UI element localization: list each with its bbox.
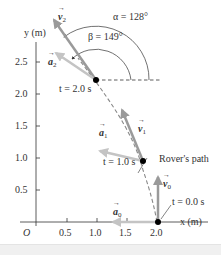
v2-label: v2 bbox=[58, 12, 66, 24]
y-tick-label-1.0: 1.0 bbox=[15, 153, 28, 163]
x-tick-label-2.0: 2.0 bbox=[150, 228, 163, 238]
a1-label: a1 bbox=[99, 128, 108, 140]
point-t0 bbox=[155, 219, 161, 225]
alpha-angle-label: α = 128° bbox=[113, 12, 148, 22]
y-axis-label: y (m) bbox=[24, 28, 46, 38]
beta-arc bbox=[72, 49, 131, 80]
v1-label: v1 bbox=[138, 124, 146, 136]
t0-label: t = 0.0 s bbox=[172, 197, 204, 207]
point-t1 bbox=[140, 158, 146, 164]
accel-vector-a2 bbox=[56, 53, 96, 80]
point-t2 bbox=[93, 77, 99, 83]
y-tick-label-2.0: 2.0 bbox=[15, 89, 28, 99]
t0-label-leader bbox=[161, 205, 171, 219]
a2-label: a2 bbox=[48, 57, 57, 69]
y-tick-label-2.5: 2.5 bbox=[15, 57, 28, 67]
x-tick-label-1.5: 1.5 bbox=[119, 228, 132, 238]
y-tick-label-0.5: 0.5 bbox=[15, 185, 28, 195]
x-tick-label-0.5: 0.5 bbox=[59, 228, 72, 238]
t1-label: t = 1.0 s bbox=[103, 157, 135, 167]
t2-label: t = 2.0 s bbox=[59, 84, 91, 94]
rover-path-label: Rover's path bbox=[159, 154, 209, 164]
a0-label: a0 bbox=[113, 207, 122, 219]
y-ticks bbox=[36, 62, 40, 190]
y-tick-label-1.5: 1.5 bbox=[15, 121, 28, 131]
x-tick-label-1.0: 1.0 bbox=[89, 228, 102, 238]
v0-label: v0 bbox=[163, 179, 171, 191]
beta-angle-label: β = 149° bbox=[88, 32, 123, 42]
x-axis-label: x (m) bbox=[180, 217, 202, 227]
origin-label: O bbox=[23, 228, 30, 238]
footer-bar bbox=[0, 244, 221, 255]
